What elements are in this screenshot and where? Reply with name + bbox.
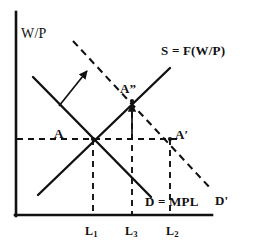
point-a-double-prime-label: A” bbox=[120, 82, 136, 95]
demand-curve-label: D = MPL bbox=[145, 195, 199, 208]
x-tick-label-l3: L3 bbox=[125, 225, 138, 239]
x-tick-label-l2-base: L bbox=[166, 224, 174, 238]
x-tick-label-l1-subscript: 1 bbox=[93, 229, 98, 239]
supply-curve-label: S = F(W/P) bbox=[161, 44, 225, 57]
point-a-prime-marker bbox=[168, 137, 172, 141]
x-tick-label-l2: L2 bbox=[166, 225, 179, 239]
shifted-demand-curve-label: D' bbox=[215, 194, 228, 207]
x-tick-label-l3-subscript: 3 bbox=[133, 229, 138, 239]
x-tick-label-l1-base: L bbox=[85, 224, 93, 238]
y-axis-label: W/P bbox=[21, 27, 47, 41]
x-tick-label-l2-subscript: 2 bbox=[174, 229, 179, 239]
point-a-double-prime-marker bbox=[130, 99, 134, 103]
point-a-prime-label: A′ bbox=[175, 128, 188, 141]
shifted-demand-curve bbox=[73, 41, 212, 190]
point-a-marker bbox=[91, 137, 95, 141]
point-a-label: A bbox=[54, 127, 64, 140]
x-tick-label-l1: L1 bbox=[85, 225, 98, 239]
labor-market-diagram: W/P S = F(W/P) A A” A′ D = MPL D' L1 L3 … bbox=[0, 0, 254, 248]
x-tick-label-l3-base: L bbox=[125, 224, 133, 238]
demand-shift-arrow bbox=[59, 71, 87, 106]
